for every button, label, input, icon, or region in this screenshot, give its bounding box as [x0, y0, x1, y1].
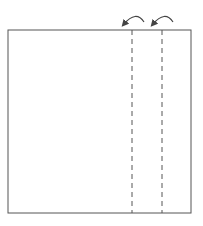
paper-square	[8, 30, 191, 213]
fold-arrow-icon-2	[153, 16, 173, 24]
fold-arrow-icon-1	[124, 16, 144, 24]
folding-diagram	[0, 0, 203, 226]
